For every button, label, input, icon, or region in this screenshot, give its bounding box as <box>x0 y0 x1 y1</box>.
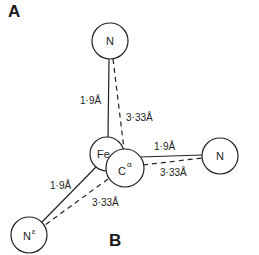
atom-n-epsilon-label: N <box>23 230 31 242</box>
atom-c-alpha-sup: α <box>127 160 132 169</box>
atom-n-top: N <box>92 23 128 59</box>
dash-calpha-n-right <box>143 158 202 165</box>
distance-label-fe-n-top: 1·9Å <box>80 94 101 106</box>
bond-fe-n-right <box>140 155 202 157</box>
distance-label-calpha-n-right: 3·33Å <box>160 166 187 178</box>
distance-label-calpha-n-top: 3·33Å <box>126 111 153 123</box>
dash-calpha-n-top <box>113 59 124 149</box>
panel-label-b: B <box>109 231 121 250</box>
distance-label-calpha-n-bottom-left: 3·33Å <box>92 196 119 208</box>
atom-fe-label: Fe <box>97 148 110 160</box>
distance-label-fe-n-bottom-left: 1·9Å <box>50 179 71 191</box>
atom-n-epsilon: N ε <box>11 217 47 253</box>
atom-n-epsilon-sup: ε <box>32 227 36 236</box>
bond-fe-n-top <box>108 59 109 138</box>
atom-n-right-label: N <box>216 150 224 162</box>
atom-n-right: N <box>202 138 238 174</box>
bond-fe-n-bottom-left <box>42 167 96 222</box>
atom-n-top-label: N <box>106 35 114 47</box>
distance-label-fe-n-right: 1·9Å <box>154 140 175 152</box>
fe-coordination-diagram: A B N N N ε Fe C α 1·9Å 3·33Å 1·9Å 3·33Å… <box>0 0 259 255</box>
atom-c-alpha-label: C <box>118 165 126 177</box>
panel-label-a: A <box>8 2 20 21</box>
atom-c-alpha: C α <box>106 149 144 187</box>
